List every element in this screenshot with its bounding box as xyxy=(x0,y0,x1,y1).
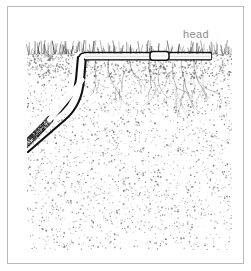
cross-section-drawing xyxy=(0,0,251,271)
sprinkler-head-joint xyxy=(150,52,169,61)
surface-lateral-pipe xyxy=(79,52,211,60)
soil-stipple xyxy=(26,51,233,251)
head-label: head xyxy=(183,28,209,40)
buried-supply-hose xyxy=(19,57,86,152)
root-systems xyxy=(90,58,219,117)
illustration-frame: head xyxy=(0,0,251,271)
